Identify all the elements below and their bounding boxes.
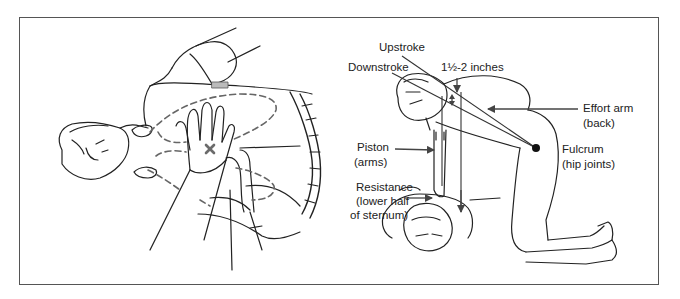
label-effort-arm-sub: (back)	[583, 116, 615, 130]
label-depth: 1½-2 inches	[441, 60, 504, 74]
label-upstroke: Upstroke	[379, 40, 425, 54]
label-fulcrum: Fulcrum	[562, 142, 604, 156]
label-resistance-sub: (lower half	[356, 194, 409, 208]
downstroke-line	[392, 73, 536, 148]
label-effort-arm: Effort arm	[583, 101, 633, 115]
label-resistance: Resistance	[356, 180, 413, 194]
label-piston-sub: (arms)	[354, 155, 387, 169]
label-piston: Piston	[357, 140, 389, 154]
label-downstroke: Downstroke	[348, 60, 409, 74]
x-mark-icon	[206, 145, 214, 153]
fulcrum-dot-icon	[532, 144, 540, 152]
label-fulcrum-sub: (hip joints)	[562, 157, 615, 171]
label-resistance-sub2: of sternum)	[350, 208, 408, 222]
piston-arrow-icon	[395, 149, 434, 150]
left-panel-illustration	[59, 28, 320, 270]
